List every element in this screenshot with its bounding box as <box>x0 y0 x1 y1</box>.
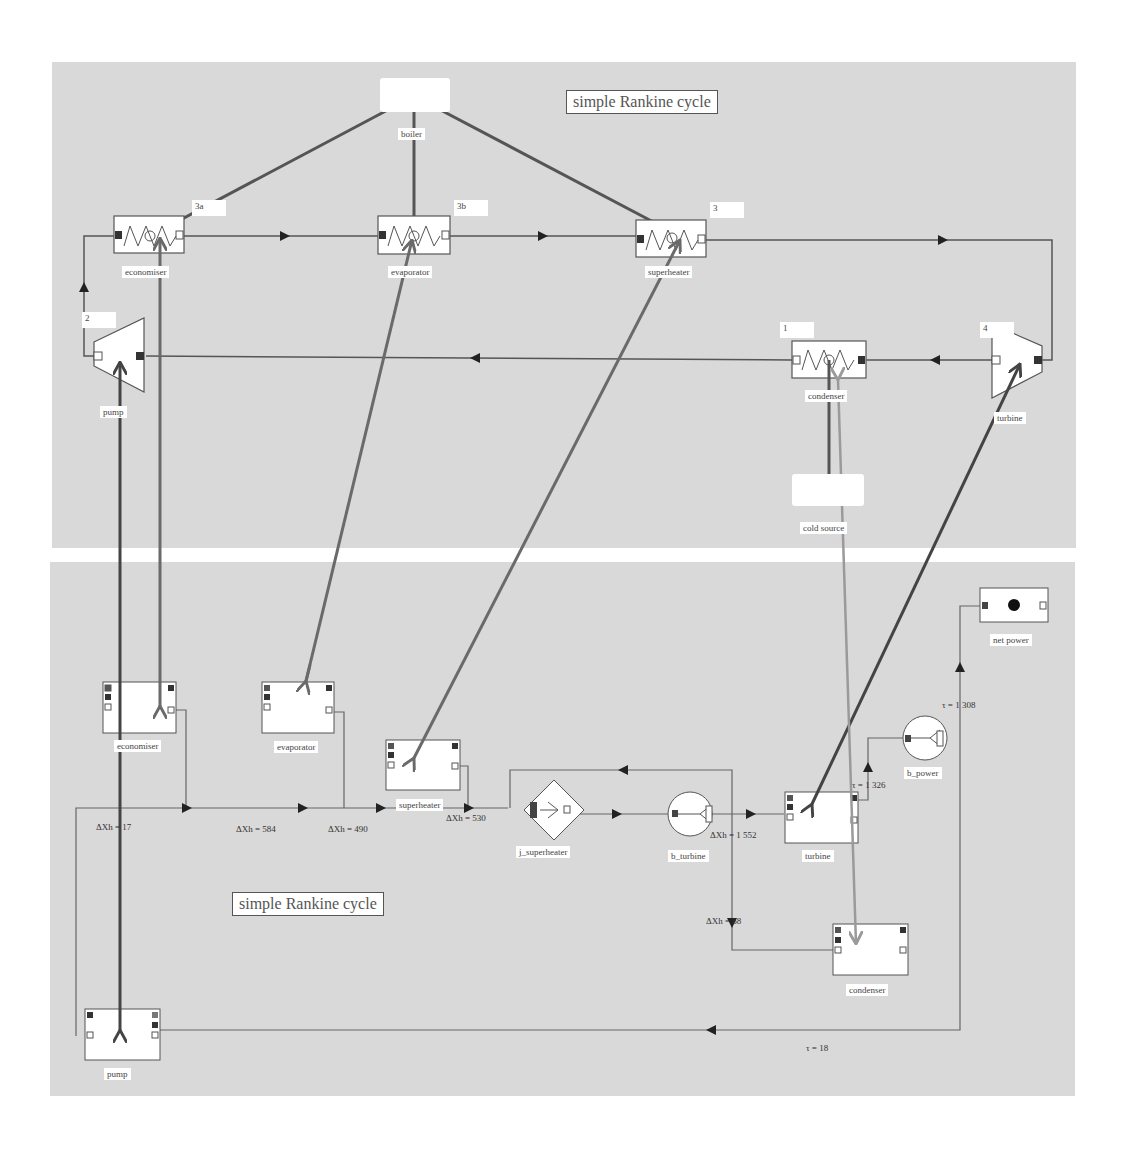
superheater-hx[interactable] <box>636 220 706 257</box>
economiser-hx[interactable] <box>114 216 184 253</box>
bottom-diagram-title: simple Rankine cycle <box>232 892 384 916</box>
point-3b-tag: 3b <box>454 200 488 216</box>
pump-block[interactable] <box>85 1009 160 1060</box>
evaporator-hx[interactable] <box>378 216 450 254</box>
dxh-turbine-value: ΔXh = 1 552 <box>710 830 757 840</box>
tau-turbine-value: τ = 1 326 <box>852 780 885 790</box>
boiler-links <box>150 96 680 236</box>
point-3a-tag: 3a <box>192 200 226 216</box>
point-1-tag: 1 <box>780 322 814 338</box>
condenser-block[interactable] <box>833 924 908 975</box>
j-superheater-junction[interactable] <box>524 780 584 840</box>
point-4-tag: 4 <box>980 322 1014 338</box>
turbine-label-bottom: turbine <box>802 850 834 862</box>
economiser-block[interactable] <box>103 682 176 733</box>
point-2-tag: 2 <box>82 312 116 328</box>
b-power-label: b_power <box>904 767 942 779</box>
net-power-label: net power <box>990 634 1032 646</box>
cold-source-node[interactable] <box>792 474 864 506</box>
top-flow-lines <box>84 236 1052 360</box>
turbine-block[interactable] <box>785 792 858 843</box>
superheater-label-bottom: superheater <box>396 799 443 811</box>
evaporator-label-top: evaporator <box>388 266 432 278</box>
point-3-tag: 3 <box>710 202 744 218</box>
dxh-economiser-value: ΔXh = 584 <box>236 824 276 834</box>
b-power-balance[interactable] <box>903 716 947 760</box>
condenser-label-top: condenser <box>805 390 847 402</box>
diagram-canvas <box>0 0 1126 1152</box>
net-power-block[interactable] <box>980 588 1048 622</box>
cold-source-label: cold source <box>800 522 847 534</box>
superheater-label-top: superheater <box>645 266 692 278</box>
economiser-label-bottom: economiser <box>114 740 161 752</box>
top-diagram-title: simple Rankine cycle <box>566 90 718 114</box>
j-superheater-label: j_superheater <box>516 846 570 858</box>
evaporator-label-bottom: evaporator <box>274 741 318 753</box>
pump-label-bottom: pump <box>104 1068 131 1080</box>
dxh-condenser-value: ΔXh = 68 <box>706 916 741 926</box>
dxh-evaporator-value: ΔXh = 490 <box>328 824 368 834</box>
condenser-label-bottom: condenser <box>846 984 888 996</box>
tau-net-value: τ = 1 308 <box>942 700 975 710</box>
tau-pump-value: τ = 18 <box>806 1043 828 1053</box>
b-turbine-label: b_turbine <box>668 850 709 862</box>
turbine-label-top: turbine <box>994 412 1026 424</box>
b-turbine-balance[interactable] <box>668 792 712 836</box>
dxh-pump-value: ΔXh = 17 <box>96 822 131 832</box>
dxh-superheater-value: ΔXh = 530 <box>446 813 486 823</box>
boiler-label: boiler <box>398 128 425 140</box>
pump-label-top: pump <box>100 406 127 418</box>
boiler-node[interactable] <box>380 78 450 112</box>
superheater-block[interactable] <box>386 740 460 790</box>
economiser-label-top: economiser <box>122 266 169 278</box>
evaporator-block[interactable] <box>262 682 334 733</box>
